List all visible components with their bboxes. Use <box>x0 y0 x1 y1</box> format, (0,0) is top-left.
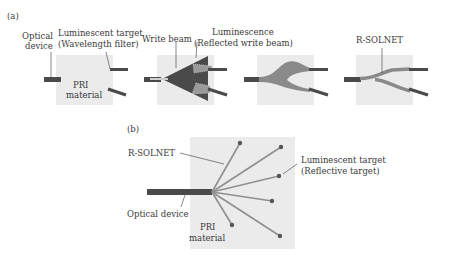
luminescent-target-label-b-line2: (Reflective target) <box>301 166 380 176</box>
luminescence-label-line1: Luminescence <box>212 27 274 37</box>
target-upper <box>110 68 128 71</box>
rsolnet-label-b: R-SOLNET <box>128 148 175 158</box>
panel-a-tag: (a) <box>7 11 19 21</box>
pri-material-label-line2: material <box>66 90 102 100</box>
pri-material-label-line1: PRI <box>73 80 88 90</box>
step2-schematic <box>144 42 227 105</box>
luminescent-target-label-line1: Luminescent target <box>58 28 143 38</box>
optical-device-label-line1: Optical <box>22 31 53 41</box>
luminescent-target-label-line2: (Wavelength filter) <box>58 39 139 49</box>
optical-device <box>44 77 61 82</box>
optical-device-label-line2: device <box>25 41 53 51</box>
step4-schematic <box>344 48 428 105</box>
write-beam-label: Write beam <box>142 34 192 44</box>
pri-material-label-b-line2: material <box>189 233 225 243</box>
pri-material-label-b-line1: PRI <box>200 222 215 232</box>
panel-b-tag: (b) <box>127 124 139 134</box>
optical-device-b <box>147 189 212 195</box>
rsolnet-label-a: R-SOLNET <box>356 35 403 45</box>
optical-device-label-b: Optical device <box>127 209 189 219</box>
step3-schematic <box>244 55 328 105</box>
luminescent-target-label-b-line1: Luminescent target <box>301 155 386 165</box>
leader-optical-device-b <box>181 195 185 207</box>
luminescence-label-line2: (Reflected write beam) <box>194 38 293 48</box>
